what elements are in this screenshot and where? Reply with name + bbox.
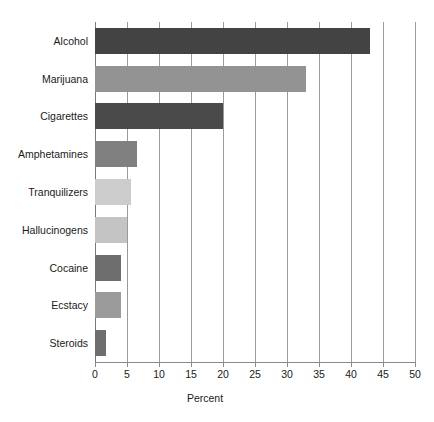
bar-row [95,60,415,98]
tick-mark-45 [383,362,384,367]
plot-area [95,22,415,362]
bar-row [95,98,415,136]
category-label-alcohol: Alcohol [54,22,88,60]
bar-chart: AlcoholMarijuanaCigarettesAmphetaminesTr… [0,0,434,422]
tick-mark-30 [287,362,288,367]
category-label-hallucinogens: Hallucinogens [22,211,88,249]
tick-mark-50 [415,362,416,367]
tick-mark-40 [351,362,352,367]
x-tick-label: 45 [377,368,389,380]
x-tick-label: 40 [345,368,357,380]
tick-mark-0 [95,362,96,367]
x-tick-label: 10 [153,368,165,380]
tick-mark-15 [191,362,192,367]
bar-steroids [95,330,106,356]
bar-row [95,173,415,211]
category-label-amphetamines: Amphetamines [18,135,88,173]
bar-row [95,286,415,324]
bar-row [95,249,415,287]
x-axis-label: Percent [0,392,434,404]
bar-hallucinogens [95,217,127,243]
x-tick-label: 30 [281,368,293,380]
category-label-marijuana: Marijuana [42,60,88,98]
category-label-steroids: Steroids [49,324,88,362]
bar-row [95,211,415,249]
category-label-tranquilizers: Tranquilizers [28,173,88,211]
bar-cocaine [95,255,121,281]
x-axis-label-text: Percent [187,392,223,404]
tick-mark-35 [319,362,320,367]
x-tick-label: 15 [185,368,197,380]
tick-mark-20 [223,362,224,367]
bar-ecstacy [95,292,121,318]
bar-row [95,135,415,173]
x-tick-label: 35 [313,368,325,380]
bar-amphetamines [95,141,137,167]
x-tick-label: 50 [409,368,421,380]
bar-alcohol [95,28,370,54]
category-label-ecstacy: Ecstacy [51,286,88,324]
x-tick-label: 20 [217,368,229,380]
x-axis-tick-labels: 05101520253035404550 [0,368,434,384]
tick-mark-10 [159,362,160,367]
bar-row [95,324,415,362]
x-tick-label: 25 [249,368,261,380]
bar-row [95,22,415,60]
y-axis-category-labels: AlcoholMarijuanaCigarettesAmphetaminesTr… [0,22,95,362]
bar-marijuana [95,66,306,92]
category-label-cigarettes: Cigarettes [40,98,88,136]
x-tick-label: 5 [124,368,130,380]
gridline-50 [415,22,416,362]
x-tick-label: 0 [92,368,98,380]
bar-tranquilizers [95,179,131,205]
tick-mark-25 [255,362,256,367]
category-label-cocaine: Cocaine [49,249,88,287]
tick-mark-5 [127,362,128,367]
bar-cigarettes [95,103,223,129]
